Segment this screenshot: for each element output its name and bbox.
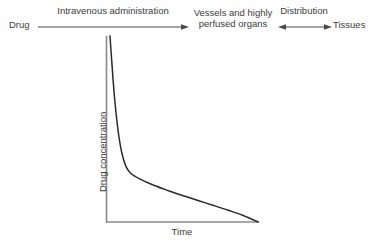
- concentration-curve-line: [110, 36, 258, 222]
- drug-concentration-time-chart: [0, 0, 371, 245]
- y-axis-title: Drug concentration: [97, 112, 108, 192]
- figure-canvas: Drug Intravenous administration Vessels …: [0, 0, 371, 245]
- x-axis-title: Time: [106, 226, 258, 237]
